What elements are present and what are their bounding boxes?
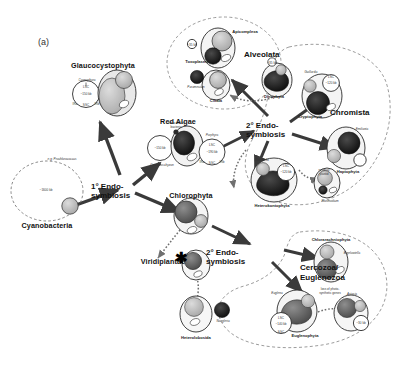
group-label-chromista: Chromista [330,109,370,117]
group-label-cercozoa-euglenozoa-line2: Euglenozoa [300,274,345,282]
genome-size-astasia: ~30 kb [356,322,365,325]
gene-region-lsc-euglena: LSC [278,317,284,320]
annotation-intracellular-bacteria-line2: bacteria [170,126,181,129]
taxon-label-cyanophora: Cyanophora [79,79,96,82]
gene-region-irb-glauco: IRb [95,103,100,106]
genome-size-porphyra: ~190 kb [206,151,217,154]
cell-heterokontophyta [251,158,297,202]
gene-region-lsc-glauco: LSC [83,86,89,89]
taxon-label-cyanidioschyzon: Cyanidioschyzon [150,164,173,167]
taxon-label-dinophyta: Dinophyta [264,95,284,99]
taxon-label-ciliata: Ciliata [210,99,222,103]
event-secondary-endosymbiosis-lower-line2: symbiosis [206,258,245,267]
event-secondary-endosymbiosis-upper-line2: symbiosis [246,131,285,140]
gene-region-lsc-odontella: LSC [283,165,289,168]
group-label-cyanobacteria: Cyanobacteria [22,222,73,230]
diagram-vector-layer [0,0,401,368]
taxon-label-astasia: Astasia [347,293,357,296]
taxon-label-odontella: Odontella [255,159,268,162]
annotation-cyanobacteria-genome-size: ~1600 kb [40,189,53,192]
taxon-label-toxoplasma: Toxoplasma [185,60,209,64]
annotation-loss-genes-line2: synthetic genes [319,292,341,295]
taxon-label-heterolobosida: Heterolobosida [181,336,211,340]
group-label-glaucocystophyta: Glaucocystophyta [71,62,135,70]
taxon-label-emiliania: Emiliania [356,128,369,131]
gene-region-irb-porphyra: IRb [220,161,225,164]
genome-size-dinophyta: ~35 kb [267,62,276,65]
taxon-label-bigelowiella: Bigelowiella [344,252,360,255]
event-primary-endosymbiosis-line2: symbiosis [91,192,130,201]
taxon-label-porphyra: Porphyra [206,134,219,137]
cell-chlorophyta [174,198,208,235]
taxon-label-guillardia: Guillardia [304,71,317,74]
taxon-label-plasmodium: Plasmodium [321,200,338,203]
cell-haptophyta [327,127,366,169]
taxon-label-heterokontophyta: Heterokontophyta [254,204,289,208]
genome-size-toxoplasma: ~35 kb [187,44,196,47]
gene-region-ira-glauco: IRa [73,103,78,106]
figure-canvas: (a) Glaucocystophyta Red Algae Chlorophy… [0,0,401,368]
gene-region-ssc-porphyra: SSC [209,162,215,165]
taxon-label-cryptophyta: Cryptophyta [298,115,322,119]
group-label-alveolata: Alveolata [244,51,280,59]
taxon-label-euglena: Euglena [271,292,282,295]
genome-size-euglena: ~140 kb [275,323,286,326]
genome-size-guillardia: ~120 kb [325,82,336,85]
genome-size-cyanidioschyzon: ~150 kb [154,147,165,150]
cell-euglena [271,290,318,334]
gene-region-ssc-glauco: SSC [83,104,89,107]
genome-size-glaucocystophyta: ~150 kb [80,93,91,96]
genome-size-odontella: ~120 kb [280,171,291,174]
annotation-prochlorococcus: e.g. Prochlorococcus [48,158,77,161]
annotation-residual-plastid-line2: plastid [320,173,329,176]
cell-heterolobosida [180,296,230,332]
taxon-label-naegleria: Naegleria [216,320,229,323]
gene-region-ira-porphyra: IRa [200,161,205,164]
asterisk-marker: ✱ [175,250,188,266]
group-label-cercozoa-euglenozoa-line1: Cercozoa/ [300,264,338,272]
taxon-label-euglenophyta: Euglenophyta [291,334,318,338]
taxon-label-apicomplexa: Apicomplexa [232,30,257,34]
gene-region-lsc-porphyra: LSC [209,144,215,147]
taxon-label-haptophyta: Haptophyta [337,170,360,174]
taxon-label-paramecium-alveolata: Paramecium [187,86,204,89]
cell-astasia [334,295,369,331]
panel-label: (a) [38,38,49,47]
gene-region-lsc-guillardia: LSC [328,76,334,79]
taxon-label-chlorarachniophyta: Chlorarachniophyta [312,238,351,242]
gene-region-ssc-euglena: SSC [278,331,284,334]
group-label-chlorophyta: Chlorophyta [169,192,212,200]
